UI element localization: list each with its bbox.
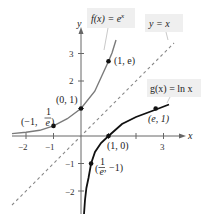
y-tick-neg1: −1 <box>65 159 75 169</box>
svg-text:(: ( <box>95 163 99 175</box>
f-label: f(x) = ex <box>91 12 125 25</box>
label-1overe-neg1: ( 1 e , −1) <box>95 156 123 177</box>
label-neg1-1overe: (−1, 1 e ) <box>21 106 54 128</box>
svg-text:, −1): , −1) <box>104 162 123 174</box>
point-e-1 <box>153 106 158 111</box>
x-tick-3: 3 <box>160 142 165 152</box>
point-1-e <box>106 59 111 64</box>
svg-text:(−1,: (−1, <box>21 116 37 128</box>
svg-text:e: e <box>46 117 51 128</box>
point-0-1 <box>79 106 84 111</box>
label-1-0: (1, 0) <box>107 140 129 152</box>
identity-label: y = x <box>148 18 170 29</box>
y-tick-3: 3 <box>69 49 74 59</box>
y-tick-2: 2 <box>69 76 74 86</box>
x-axis-arrow-icon <box>179 134 186 139</box>
point-1overe-neg1 <box>89 161 94 166</box>
g-label: g(x) = ln x <box>150 83 193 95</box>
x-tick-neg2: −2 <box>18 142 28 152</box>
identity-pointer-line <box>166 32 168 40</box>
x-axis-label: x <box>187 130 193 141</box>
label-0-1: (0, 1) <box>56 94 78 106</box>
y-axis-label: y <box>76 18 82 29</box>
svg-text:): ) <box>51 116 54 128</box>
y-tick-neg2: −2 <box>65 187 75 197</box>
point-1-0 <box>106 134 111 139</box>
x-tick-neg1: −1 <box>45 142 55 152</box>
label-e-1: (e, 1) <box>148 113 170 125</box>
graph-canvas: y x −2 −1 3 3 2 −1 −2 f(x) = ex y = x g(… <box>0 0 202 218</box>
g-pointer-line <box>167 97 170 103</box>
label-1-e: (1, e) <box>114 55 135 67</box>
f-pointer-line <box>104 28 108 50</box>
